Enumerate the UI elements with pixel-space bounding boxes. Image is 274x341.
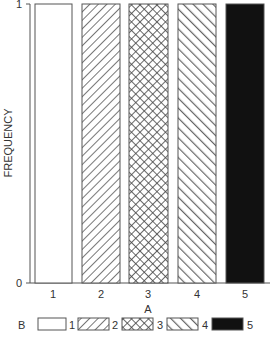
x-axis-title: A (144, 303, 152, 315)
y-tick-0: 0 (16, 277, 22, 289)
legend-swatch-5 (212, 318, 243, 330)
y-axis-title: FREQUENCY (2, 108, 14, 178)
legend-swatch-3 (122, 318, 153, 330)
x-tick-4: 4 (194, 288, 200, 300)
bar-chart: 1 0 FREQUENCY 1 2 3 4 5 A B 1 2 3 4 5 (0, 0, 274, 341)
bar-4 (178, 4, 216, 283)
x-tick-2: 2 (98, 288, 104, 300)
legend-label-3: 3 (157, 319, 163, 331)
legend-label-2: 2 (112, 319, 118, 331)
bar-3 (129, 4, 168, 283)
legend-swatch-4 (167, 318, 198, 330)
y-axis: 1 0 FREQUENCY (2, 0, 30, 289)
x-tick-3: 3 (145, 288, 151, 300)
bar-2 (82, 4, 120, 283)
legend-label-4: 4 (202, 319, 208, 331)
legend-title: B (18, 319, 25, 331)
y-tick-1: 1 (16, 0, 22, 10)
bar-5 (226, 4, 264, 283)
x-tick-1: 1 (50, 288, 56, 300)
legend-label-1: 1 (69, 319, 75, 331)
legend-swatch-2 (78, 318, 109, 330)
legend-label-5: 5 (247, 319, 253, 331)
bar-1 (35, 4, 72, 283)
bars (35, 4, 264, 283)
legend: B 1 2 3 4 5 (18, 318, 253, 331)
legend-swatch-1 (38, 318, 66, 330)
x-tick-5: 5 (242, 288, 248, 300)
x-axis: 1 2 3 4 5 A (50, 288, 248, 315)
